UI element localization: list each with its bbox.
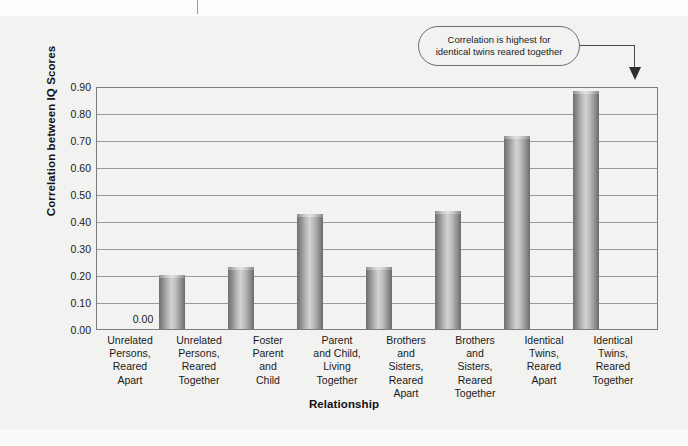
x-category-label-line: Reared — [577, 360, 649, 373]
y-tick-label: 0.10 — [31, 297, 91, 309]
x-category-label-line: Identical — [577, 334, 649, 347]
x-category-label-line: Foster — [232, 334, 304, 347]
x-category-label-line: Together — [301, 374, 373, 387]
x-category-label-line: Living — [301, 360, 373, 373]
x-axis-title: Relationship — [0, 398, 688, 410]
y-tick-label: 0.60 — [31, 162, 91, 174]
bar — [573, 91, 599, 329]
x-category-label-line: Reared — [439, 374, 511, 387]
x-category-label: IdenticalTwins,RearedApart — [508, 334, 580, 387]
x-category-label-line: Reared — [508, 360, 580, 373]
x-category-label: Parentand Child,LivingTogether — [301, 334, 373, 387]
y-tick-label: 0.90 — [31, 81, 91, 93]
x-category-label-line: Persons, — [94, 347, 166, 360]
x-category-label: UnrelatedPersons,RearedApart — [94, 334, 166, 387]
x-category-label-line: Parent — [232, 347, 304, 360]
x-category-label-line: Identical — [508, 334, 580, 347]
annotation-leader-line-vertical — [634, 45, 635, 69]
bar — [159, 275, 185, 329]
annotation-arrow-icon — [629, 67, 641, 80]
x-category-label: BrothersandSisters,RearedApart — [370, 334, 442, 400]
x-category-label-line: Reared — [370, 374, 442, 387]
bar — [228, 267, 254, 329]
x-category-label-line: Twins, — [577, 347, 649, 360]
y-tick-label: 0.40 — [31, 216, 91, 228]
x-category-label-line: Brothers — [439, 334, 511, 347]
x-category-label: UnrelatedPersons,RearedTogether — [163, 334, 235, 387]
y-tick-label: 0.20 — [31, 270, 91, 282]
y-tick-label: 0.80 — [31, 108, 91, 120]
bar — [297, 214, 323, 329]
annotation-line-1: Correlation is highest for — [448, 34, 551, 45]
y-tick-label: 0.00 — [31, 324, 91, 336]
x-category-label-line: Parent — [301, 334, 373, 347]
bar — [504, 136, 530, 329]
bar — [435, 211, 461, 329]
x-category-label-line: and — [439, 347, 511, 360]
bar — [366, 267, 392, 329]
x-category-label-line: Twins, — [508, 347, 580, 360]
x-category-label-line: Sisters, — [439, 360, 511, 373]
x-category-label-line: Brothers — [370, 334, 442, 347]
annotation-leader-line-horizontal — [580, 45, 635, 46]
x-category-label-line: Apart — [94, 374, 166, 387]
x-category-label-line: Together — [163, 374, 235, 387]
x-category-label: IdenticalTwins,RearedTogether — [577, 334, 649, 387]
chart-figure: Correlation between IQ Scores 0.90 0.80 … — [0, 0, 688, 446]
x-category-label-line: Sisters, — [370, 360, 442, 373]
y-tick-label: 0.70 — [31, 135, 91, 147]
x-category-label-line: Reared — [94, 360, 166, 373]
plot-area: 0.00 — [96, 87, 658, 330]
x-category-label: BrothersandSisters,RearedTogether — [439, 334, 511, 400]
x-category-label-line: and — [370, 347, 442, 360]
page-gutter-tick-mark — [197, 0, 198, 14]
x-category-label-line: and Child, — [301, 347, 373, 360]
annotation-callout-text: Correlation is highest for identical twi… — [428, 34, 571, 58]
page-bottom-margin — [0, 430, 688, 446]
x-category-label-line: Unrelated — [94, 334, 166, 347]
y-tick-label: 0.30 — [31, 243, 91, 255]
x-category-label-line: Together — [577, 374, 649, 387]
annotation-callout: Correlation is highest for identical twi… — [418, 26, 580, 66]
x-category-label-line: Persons, — [163, 347, 235, 360]
annotation-line-2: identical twins reared together — [436, 46, 563, 57]
x-category-label-line: Child — [232, 374, 304, 387]
x-category-label: FosterParentandChild — [232, 334, 304, 387]
x-category-label-line: Reared — [163, 360, 235, 373]
y-tick-label: 0.50 — [31, 189, 91, 201]
page-top-margin — [0, 0, 688, 16]
x-category-label-line: and — [232, 360, 304, 373]
x-category-label-line: Apart — [508, 374, 580, 387]
x-category-label-line: Unrelated — [163, 334, 235, 347]
